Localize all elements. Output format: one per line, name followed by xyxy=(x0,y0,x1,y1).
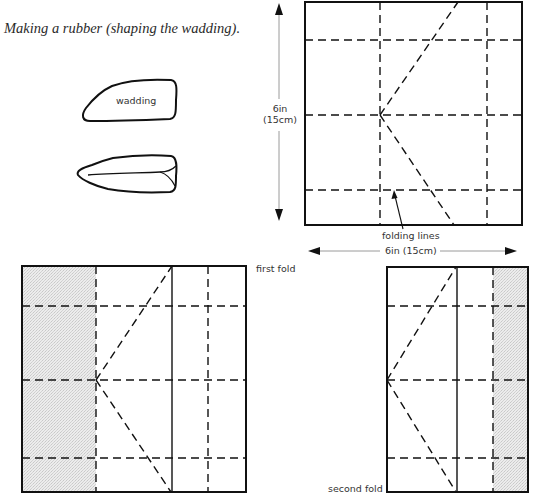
width-label: 6in (15cm) xyxy=(385,245,437,257)
first-fold-label: first fold xyxy=(256,263,295,275)
top-square xyxy=(305,2,522,229)
diagram-canvas xyxy=(0,0,536,494)
second-fold-label: second fold xyxy=(328,483,383,494)
folding-diagram: Making a rubber (shaping the wadding). xyxy=(0,0,536,494)
wadding-folded-shape xyxy=(78,155,177,192)
second-fold-rectangle xyxy=(387,267,528,492)
first-fold-square xyxy=(22,266,246,492)
wadding-label: wadding xyxy=(116,95,156,107)
height-label-cm: (15cm) xyxy=(262,114,298,126)
folding-lines-label: folding lines xyxy=(382,230,440,242)
